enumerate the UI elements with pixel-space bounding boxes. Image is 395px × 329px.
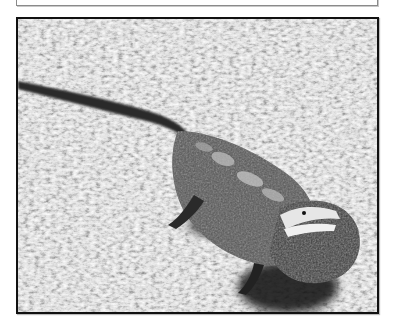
lizard-photo [16,17,379,314]
lizard-eye [302,211,306,215]
bearded-dragon-image [18,19,377,312]
caption-box [16,0,378,6]
